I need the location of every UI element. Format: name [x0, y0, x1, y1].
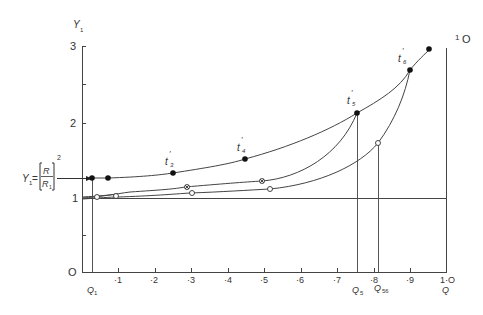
svg-text:·7: ·7: [333, 275, 341, 285]
x-axis-title: Q: [442, 285, 449, 295]
q56-label: Q: [374, 283, 381, 293]
svg-text:=: =: [32, 173, 38, 184]
svg-text:′: ′: [351, 88, 353, 97]
svg-text:3: 3: [170, 162, 174, 168]
svg-text:·4: ·4: [224, 275, 232, 285]
right-o-label: O: [462, 33, 471, 45]
q1-label: Q: [87, 285, 94, 295]
svg-text:·5: ·5: [260, 275, 268, 285]
svg-text:′: ′: [402, 46, 404, 55]
x-tick-labels: O ·1 ·2 ·3 ·4 ·5 ·6 ·7 ·8 ·9 1·O: [68, 266, 455, 285]
svg-text:·2: ·2: [150, 275, 158, 285]
ytick-3: 3: [70, 40, 76, 52]
lower-curve: [82, 70, 410, 199]
axes: [82, 46, 447, 273]
ytick-1: 1: [72, 192, 78, 204]
svg-text:R: R: [42, 179, 49, 189]
svg-text:2: 2: [57, 154, 61, 161]
svg-text:5: 5: [352, 101, 356, 107]
q1-sub: 1: [94, 290, 98, 296]
svg-text:·6: ·6: [296, 275, 304, 285]
y-axis-title-sub: 1: [80, 27, 84, 33]
upper-points: [89, 46, 432, 181]
right-one-label: 1: [455, 33, 460, 42]
formula-arrow: [57, 176, 92, 181]
curves: [82, 49, 430, 199]
svg-text:·3: ·3: [187, 275, 195, 285]
q5-label: Q: [352, 285, 359, 295]
svg-text:1·O: 1·O: [440, 275, 455, 285]
middle-curve: [82, 113, 357, 198]
marker-lines: [93, 113, 379, 272]
ytick-2: 2: [70, 117, 76, 129]
svg-text:·1: ·1: [114, 275, 122, 285]
chart: Y 1 3 2 1 Y 1 = R R 1 2 t 3 ′ t 4 ′ t 5 …: [0, 0, 483, 315]
svg-text:6: 6: [403, 59, 407, 65]
point-labels: t 3 ′ t 4 ′ t 5 ′ t 6 ′: [165, 46, 407, 168]
formula-annotation: Y 1 = R R 1 2: [22, 154, 61, 190]
svg-text:O: O: [68, 266, 77, 278]
svg-text:′: ′: [241, 135, 243, 144]
q5-sub: 5: [360, 290, 364, 296]
svg-text:4: 4: [242, 148, 246, 154]
svg-text:R: R: [43, 166, 50, 176]
upper-curve: [92, 49, 430, 178]
q56-sub: 56: [382, 288, 389, 294]
svg-text:′: ′: [169, 149, 171, 158]
svg-text:1: 1: [49, 184, 52, 190]
svg-text:·9: ·9: [406, 275, 414, 285]
